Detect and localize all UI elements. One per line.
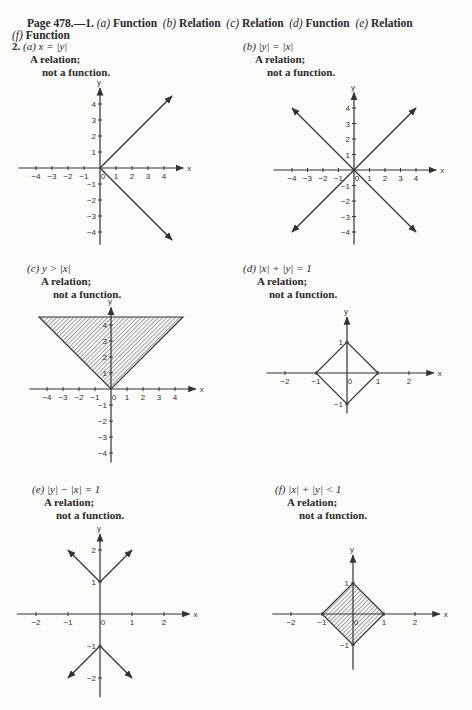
x-tick-label: 1 xyxy=(382,618,387,627)
x-axis-label: x xyxy=(438,369,442,378)
x-tick-label: −1 xyxy=(63,618,73,627)
y-tick-label: −4 xyxy=(98,449,108,458)
x-axis-label: x xyxy=(194,610,198,619)
x-tick-label: 1 xyxy=(130,618,135,627)
y-tick-label: −2 xyxy=(341,197,351,206)
answer-page: Page 478.—1. (a) Function (b) Relation (… xyxy=(0,0,472,710)
x-tick-label: −2 xyxy=(31,618,41,627)
x-tick-label: −2 xyxy=(286,618,296,627)
x-tick-label: 4 xyxy=(173,393,178,402)
y-tick-label: −2 xyxy=(98,417,108,426)
y-tick-label: 4 xyxy=(103,321,108,330)
x-tick-label: 0 xyxy=(112,393,117,402)
x-tick-label: −2 xyxy=(74,393,84,402)
y-tick-label: −3 xyxy=(341,213,351,222)
y-tick-label: 1 xyxy=(92,148,97,157)
y-tick-label: 3 xyxy=(92,116,97,125)
y-tick-label: 1 xyxy=(92,578,97,587)
y-tick-label: 1 xyxy=(345,579,350,588)
y-tick-label: 4 xyxy=(92,100,97,109)
x-tick-label: −3 xyxy=(58,393,68,402)
y-axis-label: y xyxy=(97,78,101,87)
x-tick-label: 4 xyxy=(414,174,419,183)
y-axis-label: y xyxy=(351,83,355,92)
y-tick-label: 2 xyxy=(103,353,108,362)
x-tick-label: 2 xyxy=(162,618,167,627)
y-axis-label: y xyxy=(97,524,101,533)
x-tick-label: 3 xyxy=(157,393,162,402)
graph-ray xyxy=(100,550,132,582)
x-axis-label: x xyxy=(187,164,191,173)
y-tick-label: −1 xyxy=(341,182,351,191)
x-tick-label: −2 xyxy=(318,174,328,183)
x-tick-label: 1 xyxy=(376,377,381,386)
y-tick-label: 1 xyxy=(346,151,351,160)
y-tick-label: −1 xyxy=(87,180,97,189)
x-tick-label: 2 xyxy=(141,393,146,402)
x-tick-label: 0 xyxy=(354,618,359,627)
y-tick-label: −3 xyxy=(87,212,97,221)
x-tick-label: 3 xyxy=(146,172,151,181)
x-tick-label: −4 xyxy=(287,174,297,183)
y-tick-label: 3 xyxy=(103,337,108,346)
x-tick-label: −2 xyxy=(63,172,73,181)
x-tick-label: −3 xyxy=(47,172,57,181)
x-tick-label: 2 xyxy=(413,618,418,627)
x-tick-label: −1 xyxy=(311,377,321,386)
x-tick-label: 1 xyxy=(125,393,130,402)
x-axis-label: x xyxy=(440,166,444,175)
y-tick-label: −2 xyxy=(87,674,97,683)
x-tick-label: 2 xyxy=(407,377,412,386)
y-tick-label: −4 xyxy=(341,228,351,237)
y-tick-label: −3 xyxy=(98,433,108,442)
graphs-canvas: xy−4−3−2−101234−4−3−2−11234xy−4−3−2−1012… xyxy=(0,0,472,710)
y-tick-label: 4 xyxy=(346,104,351,113)
x-tick-label: 0 xyxy=(348,377,353,386)
y-tick-label: 2 xyxy=(92,132,97,141)
graph-ray xyxy=(100,646,132,678)
x-axis-label: x xyxy=(444,610,448,619)
x-tick-label: −1 xyxy=(317,618,327,627)
y-tick-label: 2 xyxy=(346,135,351,144)
x-tick-label: 2 xyxy=(130,172,135,181)
y-tick-label: −1 xyxy=(98,401,108,410)
graph-line xyxy=(100,96,172,168)
y-tick-label: 2 xyxy=(92,546,97,555)
x-tick-label: 1 xyxy=(114,172,119,181)
x-tick-label: 2 xyxy=(383,174,388,183)
y-tick-label: −1 xyxy=(334,400,344,409)
y-tick-label: −4 xyxy=(87,228,97,237)
x-tick-label: 1 xyxy=(367,174,372,183)
y-tick-label: −1 xyxy=(340,641,350,650)
x-tick-label: 3 xyxy=(398,174,403,183)
x-tick-label: 0 xyxy=(101,618,106,627)
x-tick-label: 4 xyxy=(162,172,167,181)
x-tick-label: −4 xyxy=(42,393,52,402)
y-tick-label: 1 xyxy=(103,369,108,378)
y-axis-label: y xyxy=(108,297,112,306)
y-axis-label: y xyxy=(350,545,354,554)
x-axis-label: x xyxy=(200,385,204,394)
x-tick-label: −2 xyxy=(280,377,290,386)
y-tick-label: −1 xyxy=(87,642,97,651)
y-axis-label: y xyxy=(344,307,348,316)
x-tick-label: −4 xyxy=(31,172,41,181)
x-tick-label: −3 xyxy=(303,174,313,183)
y-tick-label: 3 xyxy=(346,120,351,129)
y-tick-label: −2 xyxy=(87,196,97,205)
